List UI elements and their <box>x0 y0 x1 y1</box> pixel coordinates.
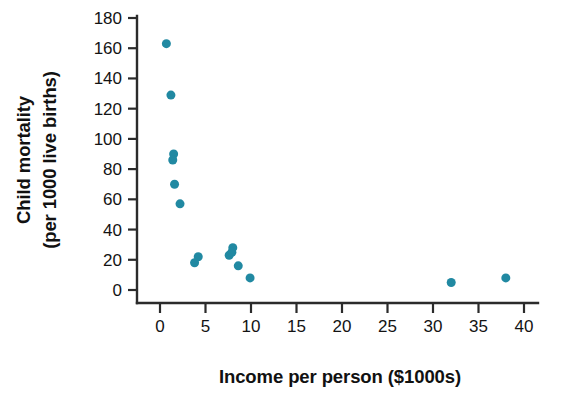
data-point <box>447 278 456 287</box>
y-tick-label: 140 <box>94 69 122 88</box>
y-tick-label: 160 <box>94 39 122 58</box>
y-axis-tick-marks <box>128 18 137 290</box>
data-point <box>246 273 255 282</box>
x-axis-tick-marks <box>160 303 524 313</box>
data-point <box>176 199 185 208</box>
x-axis-title: Income per person ($1000s) <box>219 366 461 387</box>
x-axis-tick-labels: 0510152025303540 <box>155 317 533 336</box>
y-axis-tick-labels: 020406080100120140160180 <box>94 9 122 300</box>
data-point <box>194 252 203 261</box>
x-tick-label: 30 <box>424 317 443 336</box>
x-tick-label: 20 <box>333 317 352 336</box>
y-tick-label: 100 <box>94 130 122 149</box>
y-axis-title-line-1: Child mortality <box>13 95 34 224</box>
y-tick-label: 20 <box>103 251 122 270</box>
y-tick-label: 60 <box>103 190 122 209</box>
data-point <box>170 180 179 189</box>
y-tick-label: 180 <box>94 9 122 28</box>
x-tick-label: 40 <box>515 317 534 336</box>
data-point <box>227 248 236 257</box>
y-tick-label: 120 <box>94 100 122 119</box>
data-point <box>501 273 510 282</box>
x-tick-label: 35 <box>469 317 488 336</box>
y-tick-label: 40 <box>103 221 122 240</box>
data-point <box>168 156 177 165</box>
x-tick-label: 5 <box>201 317 210 336</box>
scatter-data-points <box>162 39 510 287</box>
scatter-plot-canvas: 020406080100120140160180 051015202530354… <box>0 0 570 393</box>
chart-figure: 020406080100120140160180 051015202530354… <box>0 0 570 393</box>
x-tick-label: 25 <box>378 317 397 336</box>
y-axis-title: Child mortality (per 1000 live births) <box>13 71 60 249</box>
data-point <box>234 261 243 270</box>
x-tick-label: 10 <box>242 317 261 336</box>
data-point <box>166 91 175 100</box>
y-tick-label: 80 <box>103 160 122 179</box>
x-tick-label: 15 <box>287 317 306 336</box>
y-axis-title-line-2: (per 1000 live births) <box>39 71 60 249</box>
x-tick-label: 0 <box>155 317 164 336</box>
y-tick-label: 0 <box>113 281 122 300</box>
data-point <box>162 39 171 48</box>
